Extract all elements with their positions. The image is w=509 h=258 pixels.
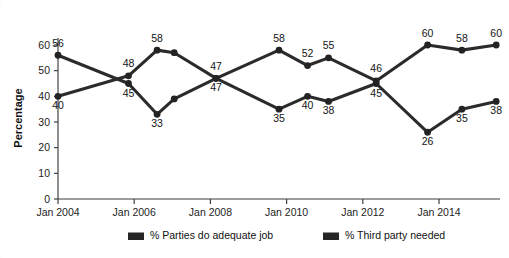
- data-label: 35: [273, 112, 285, 124]
- legend-swatch-0: [128, 233, 144, 241]
- data-label: 47: [210, 60, 222, 72]
- data-point: [304, 62, 311, 69]
- data-label: 47: [210, 81, 222, 93]
- y-axis-title: Percentage: [12, 88, 24, 147]
- x-tick-label: Jan 2004: [36, 206, 79, 218]
- data-label: 26: [422, 135, 434, 147]
- data-label: 56: [52, 37, 64, 49]
- data-label: 45: [370, 87, 382, 99]
- y-tick-label: 30: [38, 116, 50, 128]
- data-label: 35: [456, 112, 468, 124]
- data-point: [373, 78, 380, 85]
- chart-legend: % Parties do adequate job% Third party n…: [128, 229, 445, 241]
- data-point: [125, 72, 132, 79]
- y-axis: 0102030405060: [38, 38, 58, 205]
- data-label: 38: [323, 104, 335, 116]
- line-chart: 0102030405060 Jan 2004Jan 2006Jan 2008Ja…: [0, 0, 509, 258]
- data-point: [424, 42, 431, 49]
- x-tick-label: Jan 2006: [113, 206, 156, 218]
- data-point: [493, 42, 500, 49]
- data-label: 58: [273, 32, 285, 44]
- data-point: [459, 47, 466, 54]
- chart-container: 0102030405060 Jan 2004Jan 2006Jan 2008Ja…: [0, 0, 509, 258]
- data-label: 60: [422, 27, 434, 39]
- data-point: [276, 47, 283, 54]
- data-label: 40: [302, 99, 314, 111]
- y-tick-label: 50: [38, 64, 50, 76]
- data-point: [55, 52, 62, 59]
- data-label: 33: [151, 117, 163, 129]
- x-tick-label: Jan 2014: [417, 206, 460, 218]
- data-point: [325, 54, 332, 61]
- data-label: 48: [123, 57, 135, 69]
- x-tick-label: Jan 2012: [341, 206, 384, 218]
- data-point: [171, 49, 178, 56]
- data-point: [171, 96, 178, 103]
- data-label: 38: [490, 104, 502, 116]
- data-label: 52: [302, 47, 314, 59]
- y-tick-label: 20: [38, 141, 50, 153]
- y-tick-label: 10: [38, 167, 50, 179]
- x-tick-label: Jan 2010: [265, 206, 308, 218]
- legend-label-0: % Parties do adequate job: [150, 229, 273, 241]
- legend-swatch-1: [323, 233, 339, 241]
- y-tick-label: 40: [38, 90, 50, 102]
- legend-label-1: % Third party needed: [345, 229, 445, 241]
- data-label: 40: [52, 99, 64, 111]
- x-axis: Jan 2004Jan 2006Jan 2008Jan 2010Jan 2012…: [36, 199, 500, 218]
- data-label: 58: [151, 32, 163, 44]
- data-label: 55: [323, 39, 335, 51]
- data-point: [154, 47, 161, 54]
- data-label: 46: [370, 62, 382, 74]
- data-label: 45: [123, 87, 135, 99]
- y-tick-label: 60: [38, 39, 50, 51]
- y-tick-label: 0: [44, 193, 50, 205]
- x-tick-label: Jan 2008: [189, 206, 232, 218]
- data-label: 58: [456, 32, 468, 44]
- data-label: 60: [490, 27, 502, 39]
